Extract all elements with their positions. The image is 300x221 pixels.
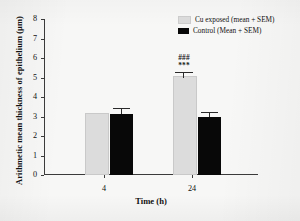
legend-item-cu-exposed: Cu exposed (mean + SEM) <box>178 15 275 24</box>
error-bar-control-24h <box>209 113 210 117</box>
x-axis-line <box>44 174 258 175</box>
y-tick-label-5: 5 <box>33 73 37 81</box>
y-axis-title: Arithmetic mean thickness of epithelium … <box>15 3 24 199</box>
x-tick-24h: 24 <box>192 175 193 178</box>
x-axis-title: Time (h) <box>44 196 258 206</box>
legend-label-cu-exposed: Cu exposed (mean + SEM) <box>195 16 275 24</box>
legend-swatch-cu-exposed <box>178 16 191 24</box>
error-bar-control-4h <box>121 109 122 114</box>
y-tick-4: 4 <box>41 97 44 98</box>
y-tick-7: 7 <box>41 39 44 40</box>
legend-label-control: Control (Mean + SEM) <box>193 27 261 35</box>
y-tick-2: 2 <box>41 136 44 137</box>
x-tick-4h: 4 <box>104 175 105 178</box>
y-tick-label-4: 4 <box>33 93 37 101</box>
bar-control-4h <box>110 114 133 175</box>
bar-cu-exposed-4h <box>85 113 109 175</box>
plot-area: 8 7 6 5 4 3 2 1 0 4 24 <box>44 19 258 175</box>
error-bar-cap-control-24h <box>201 112 218 113</box>
bar-control-24h <box>198 117 221 176</box>
y-tick-8: 8 <box>41 19 44 20</box>
y-axis-line <box>44 19 45 175</box>
legend-swatch-control <box>178 28 189 34</box>
y-tick-label-2: 2 <box>33 132 37 140</box>
y-tick-0: 0 <box>41 175 44 176</box>
x-tick-label-4h: 4 <box>102 185 106 193</box>
y-tick-1: 1 <box>41 156 44 157</box>
y-tick-label-0: 0 <box>33 171 37 179</box>
chart-legend: Cu exposed (mean + SEM) Control (Mean + … <box>178 15 275 37</box>
error-bar-cap-cu-exposed-24h <box>175 72 193 73</box>
y-tick-5: 5 <box>41 78 44 79</box>
bar-chart-figure: Arithmetic mean thickness of epithelium … <box>0 0 300 221</box>
legend-item-control: Control (Mean + SEM) <box>178 26 275 35</box>
y-tick-6: 6 <box>41 58 44 59</box>
y-tick-3: 3 <box>41 117 44 118</box>
y-tick-label-8: 8 <box>33 15 37 23</box>
error-bar-cu-exposed-24h <box>183 73 184 77</box>
y-tick-label-1: 1 <box>33 151 37 159</box>
y-tick-label-6: 6 <box>33 54 37 62</box>
significance-star-24h: *** <box>178 62 190 69</box>
bar-cu-exposed-24h <box>173 76 197 176</box>
error-bar-cap-control-4h <box>113 108 130 109</box>
x-tick-label-24h: 24 <box>188 185 196 193</box>
y-tick-label-3: 3 <box>33 112 37 120</box>
y-tick-label-7: 7 <box>33 34 37 42</box>
